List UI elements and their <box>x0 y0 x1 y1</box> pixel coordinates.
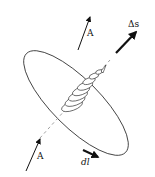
right-hand-helix-icon <box>60 65 106 114</box>
area-vector-arrow <box>116 32 136 53</box>
area-vector-label: Δs <box>128 19 139 29</box>
line-element-arrow <box>83 150 98 157</box>
field-label-bottom: A <box>36 151 44 161</box>
stokes-loop-diagram: Δs A A dl <box>0 0 155 177</box>
field-label-top: A <box>86 28 94 38</box>
line-element-label: dl <box>81 157 90 167</box>
